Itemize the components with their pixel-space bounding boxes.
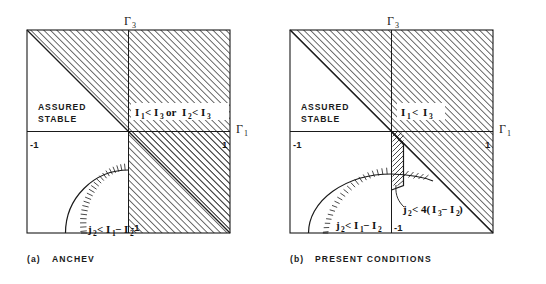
y-axis-label-b-sub: 3: [395, 21, 399, 30]
tick-label-bottom-b: -1: [394, 222, 403, 233]
sliver-ineq-b-four: 4(: [421, 203, 431, 216]
curve-ineq-b-I1: I: [354, 219, 358, 231]
tick-label-right-b: 1: [485, 139, 491, 150]
region-ineq-b-I1sub: 1: [407, 112, 411, 121]
sliver-ineq-b-minus: −: [441, 203, 447, 215]
panel-present-conditions: -1 1 -1 Γ 3 Γ 1 ASSURED STABLE I 1: [273, 0, 546, 284]
curve-ineq-a-I2: I: [124, 223, 128, 235]
x-axis-label-a-main: Γ: [236, 122, 243, 136]
curve-ineq-a-j: j: [87, 223, 92, 235]
curve-ineq-b-I2sub: 2: [378, 225, 382, 234]
sliver-ineq-b-j: j: [402, 203, 407, 215]
sliver-ineq-b-close: ): [459, 203, 463, 216]
region-ineq-a-op1: <: [145, 106, 151, 118]
curve-inequality-label-b: j 2 < I 1 − I 2: [335, 219, 382, 234]
figure-container: -1 1 -1 Γ 3 Γ 1 ASSURED STABLE I 1: [0, 0, 546, 284]
curve-ineq-a-op: <: [97, 223, 103, 235]
region-ineq-a-I2: I: [182, 106, 186, 118]
sliver-inequality-label-b: j 2 < 4( I 3 − I 2 ): [402, 203, 463, 218]
region-ineq-a-op2: <: [192, 106, 198, 118]
assured-stable-line2-a: STABLE: [38, 114, 77, 124]
sliver-ineq-b-op: <: [412, 203, 418, 215]
assured-stable-line2-b: STABLE: [301, 114, 340, 124]
y-axis-label-a: Γ 3: [124, 14, 136, 30]
region-ineq-a-I3bsub: 3: [207, 112, 211, 121]
x-axis-label-a-sub: 1: [244, 129, 248, 138]
sliver-ineq-b-I3: I: [432, 203, 436, 215]
region-ineq-a-conj: or: [166, 106, 177, 118]
curve-ineq-b-I2: I: [372, 219, 376, 231]
region-inequality-label-b: I 1 < I 3: [397, 103, 445, 121]
curve-ineq-b-minus: −: [363, 219, 369, 231]
sliver-ineq-b-I2: I: [450, 203, 454, 215]
region-ineq-b-I1: I: [401, 106, 405, 118]
tick-label-left-a: -1: [30, 139, 39, 150]
region-ineq-a-I3sub: 3: [160, 112, 164, 121]
caption-a: (a) ANCHEV: [27, 254, 95, 264]
assured-stable-line1-a: ASSURED: [38, 102, 86, 112]
x-axis-label-b: Γ 1: [499, 122, 511, 138]
caption-a-text: ANCHEV: [52, 254, 95, 264]
panel-anchev: -1 1 -1 Γ 3 Γ 1 ASSURED STABLE I 1: [0, 0, 273, 284]
y-axis-label-a-main: Γ: [124, 14, 131, 28]
caption-a-tag: (a): [27, 254, 41, 264]
caption-b-text: PRESENT CONDITIONS: [315, 254, 432, 264]
tick-label-left-b: -1: [293, 139, 302, 150]
x-axis-label-b-sub: 1: [507, 129, 511, 138]
y-axis-label-b: Γ 3: [387, 14, 399, 30]
panel-a-svg: -1 1 -1 Γ 3 Γ 1 ASSURED STABLE I 1: [0, 0, 273, 284]
tick-label-right-a: 1: [222, 139, 228, 150]
curve-ineq-a-minus: −: [115, 223, 121, 235]
y-axis-label-a-sub: 3: [132, 21, 136, 30]
caption-b: (b) PRESENT CONDITIONS: [290, 254, 432, 264]
region-ineq-a-I1: I: [135, 106, 139, 118]
y-axis-label-b-main: Γ: [387, 14, 394, 28]
x-axis-label-a: Γ 1: [236, 122, 248, 138]
assured-stable-line1-b: ASSURED: [301, 102, 349, 112]
caption-b-tag: (b): [290, 254, 304, 264]
curve-ineq-b-op: <: [345, 219, 351, 231]
region-ineq-a-I3b: I: [201, 106, 205, 118]
region-ineq-b-I3sub: 3: [429, 112, 433, 121]
region-ineq-b-op1: <: [412, 106, 418, 118]
assured-stable-label-b: ASSURED STABLE: [301, 102, 349, 124]
region-inequality-label-a: I 1 < I 3 or I 2 < I 3: [131, 103, 229, 121]
curve-ineq-b-j: j: [335, 219, 340, 231]
curve-ineq-a-I1: I: [106, 223, 110, 235]
region-ineq-a-I3: I: [154, 106, 158, 118]
x-axis-label-b-main: Γ: [499, 122, 506, 136]
curve-ineq-a-I2sub: 2: [130, 229, 134, 238]
region-ineq-b-I3: I: [423, 106, 427, 118]
panel-b-svg: -1 1 -1 Γ 3 Γ 1 ASSURED STABLE I 1: [273, 0, 546, 284]
